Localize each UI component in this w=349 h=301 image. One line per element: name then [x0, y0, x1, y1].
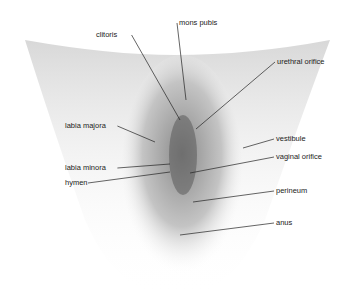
- central-detail: [169, 115, 197, 195]
- anatomy-figure: mons pubisclitorisurethral orificelabia …: [0, 0, 349, 301]
- label-urethral-orifice: urethral orifice: [277, 58, 325, 66]
- label-hymen: hymen: [65, 179, 88, 187]
- label-labia-minora: labia minora: [65, 164, 106, 172]
- illustration: [0, 0, 349, 301]
- label-perineum: perineum: [276, 187, 307, 195]
- label-anus: anus: [276, 219, 292, 227]
- label-clitoris: clitoris: [96, 31, 117, 39]
- label-vestibule: vestibule: [276, 135, 306, 143]
- label-labia-majora: labia majora: [65, 122, 106, 130]
- label-vaginal-orifice: vaginal orifice: [276, 153, 322, 161]
- label-mons-pubis: mons pubis: [179, 19, 217, 27]
